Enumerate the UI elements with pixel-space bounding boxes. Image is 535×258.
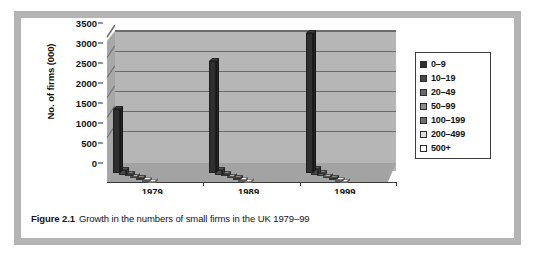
y-axis-tick-label: 2500 — [76, 58, 97, 69]
y-axis-tick-label: 1500 — [76, 98, 97, 109]
legend-item[interactable]: 100–199 — [420, 113, 486, 127]
bar — [136, 178, 143, 180]
legend-swatch-icon — [420, 89, 427, 96]
legend-item[interactable]: 0–9 — [420, 57, 486, 71]
legend-item[interactable]: 20–49 — [420, 85, 486, 99]
y-axis-tick-mark — [98, 43, 103, 44]
bar — [142, 180, 149, 182]
y-axis-tick-label: 500 — [81, 138, 97, 149]
bar — [209, 61, 216, 173]
figure-caption-text: Growth in the numbers of small firms in … — [79, 213, 310, 224]
x-axis-tick-mark — [396, 182, 397, 186]
legend-swatch-icon — [420, 75, 427, 82]
bar-group — [300, 34, 396, 186]
y-axis-tick-mark — [98, 63, 103, 64]
bar — [329, 178, 336, 180]
y-axis-tick-mark — [98, 83, 103, 84]
y-axis-tick-label: 2000 — [76, 78, 97, 89]
bar — [233, 178, 240, 180]
legend-swatch-icon — [420, 145, 427, 152]
legend-swatch-icon — [420, 131, 427, 138]
y-axis-tick-mark — [98, 123, 103, 124]
bar-side-face — [216, 58, 219, 173]
legend-item-label: 10–19 — [431, 73, 455, 83]
legend-item-label: 20–49 — [431, 87, 455, 97]
legend-item[interactable]: 500+ — [420, 141, 486, 155]
figure-card: No. of firms (000) 050010001500200025003… — [21, 18, 514, 238]
legend-item[interactable]: 10–19 — [420, 71, 486, 85]
legend-item-label: 100–199 — [431, 115, 465, 125]
figure-caption-label: Figure 2.1 — [31, 213, 75, 224]
y-axis-tick-label: 0 — [92, 158, 97, 169]
y-axis-tick-label: 3000 — [76, 38, 97, 49]
bar-front-face — [306, 33, 313, 173]
y-axis-title: No. of firms (000) — [45, 27, 56, 137]
legend-item-label: 0–9 — [431, 59, 446, 69]
y-axis-tick-labels: 0500100015002000250030003500 — [57, 30, 103, 174]
chart-legend: 0–910–1920–4950–99100–199200–499500+ — [415, 52, 491, 159]
y-axis-tick-mark — [98, 103, 103, 104]
legend-item[interactable]: 50–99 — [420, 99, 486, 113]
y-axis-tick-mark — [98, 163, 103, 164]
legend-swatch-icon — [420, 103, 427, 110]
legend-swatch-icon — [420, 61, 427, 68]
legend-item-label: 50–99 — [431, 101, 455, 111]
plot-area — [107, 30, 396, 186]
y-axis-tick-mark — [98, 23, 103, 24]
gridline — [115, 31, 396, 32]
bar-side-face — [120, 107, 123, 173]
y-axis-tick-mark — [98, 143, 103, 144]
bar — [306, 33, 313, 173]
caption-divider — [21, 199, 514, 200]
bar-front-face — [329, 178, 336, 180]
chart-panel: No. of firms (000) 050010001500200025003… — [21, 18, 514, 194]
bar-group — [203, 34, 299, 186]
legend-item[interactable]: 200–499 — [420, 127, 486, 141]
x-axis-tick-mark — [300, 182, 301, 186]
legend-swatch-icon — [420, 117, 427, 124]
x-axis-tick-mark — [203, 182, 204, 186]
bar — [323, 177, 330, 179]
bar-group — [107, 34, 203, 186]
bar — [244, 182, 251, 184]
legend-item-label: 500+ — [431, 143, 451, 153]
figure-frame: No. of firms (000) 050010001500200025003… — [14, 11, 521, 245]
y-axis-tick-label: 1000 — [76, 118, 97, 129]
y-axis-tick-label: 3500 — [76, 18, 97, 29]
x-axis-tick-label: 1989 — [238, 186, 259, 194]
figure-caption: Figure 2.1Growth in the numbers of small… — [31, 213, 504, 224]
legend-item-label: 200–499 — [431, 129, 465, 139]
bar-front-face — [113, 109, 120, 173]
x-axis-tick-label: 1999 — [334, 186, 355, 194]
bar-side-face — [313, 30, 316, 173]
gridline — [115, 30, 396, 31]
x-axis-tick-label: 1979 — [142, 186, 163, 194]
bar — [113, 109, 120, 173]
